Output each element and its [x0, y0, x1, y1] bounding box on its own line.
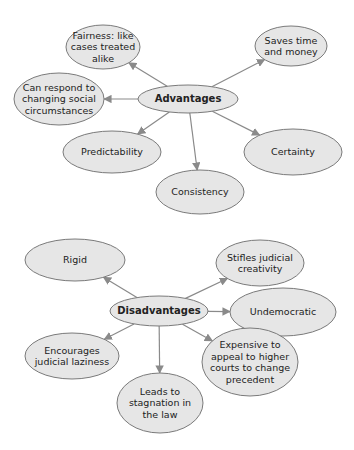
concept-node-label: Rigid: [25, 239, 125, 281]
hub-node-label: Disadvantages: [110, 296, 208, 326]
hub-node-label: Advantages: [138, 85, 238, 113]
concept-node-label: Stifles judicial creativity: [216, 240, 304, 286]
concept-node-label: Saves time and money: [255, 26, 327, 66]
concept-node-label: Expensive to appeal to higher courts to …: [202, 328, 298, 396]
concept-node-label: Encourages judicial laziness: [25, 333, 119, 379]
concept-node-label: Fairness: like cases treated alike: [66, 25, 140, 69]
concept-node-label: Certainty: [244, 129, 342, 175]
concept-node-label: Can respond to changing social circumsta…: [14, 73, 104, 125]
concept-node-label: Predictability: [63, 131, 161, 173]
concept-node-label: Leads to stagnation in the law: [117, 373, 203, 433]
concept-node-label: Consistency: [156, 170, 244, 214]
arrow-connector: [190, 113, 197, 170]
arrow-connector: [159, 326, 160, 373]
